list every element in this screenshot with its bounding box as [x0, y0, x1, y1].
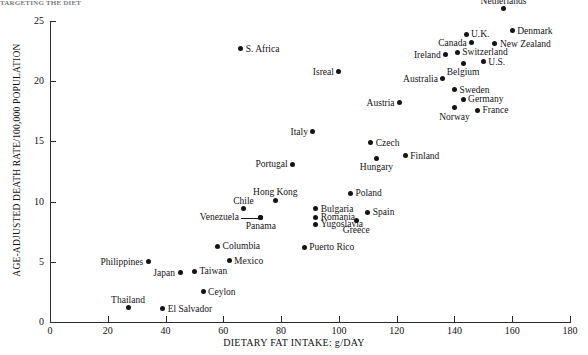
- data-point: [461, 97, 466, 102]
- x-tick: [570, 316, 571, 322]
- x-tick-label: 140: [439, 326, 469, 336]
- data-point-label: Japan: [153, 268, 175, 278]
- data-point: [403, 153, 408, 158]
- x-tick-label: 160: [497, 326, 527, 336]
- y-axis-title: AGE-ADJUSTED DEATH RATE/100,000 POPULATI…: [12, 10, 22, 310]
- data-point: [313, 206, 318, 211]
- data-point: [201, 289, 206, 294]
- data-point-label: Belgium: [447, 67, 480, 77]
- x-tick-label: 120: [382, 326, 412, 336]
- data-point: [178, 270, 183, 275]
- data-point: [227, 258, 232, 263]
- data-point: [440, 76, 445, 81]
- data-point-label: U.S.: [488, 57, 505, 67]
- data-point-label: Ireland: [414, 50, 441, 60]
- data-point: [397, 100, 402, 105]
- data-point: [481, 59, 486, 64]
- data-point-label: Norway: [439, 112, 470, 122]
- data-point: [241, 206, 246, 211]
- data-point-label: Poland: [355, 188, 381, 198]
- data-point: [146, 259, 151, 264]
- data-point-label: Ceylon: [208, 287, 235, 297]
- x-axis-line: [50, 322, 571, 323]
- data-point: [126, 305, 131, 310]
- data-point: [510, 28, 515, 33]
- x-tick-label: 0: [35, 326, 65, 336]
- plot-area: NetherlandsDenmarkU.K.CanadaNew ZealandS…: [50, 21, 570, 322]
- data-point-label: Netherlands: [481, 0, 527, 6]
- data-point: [374, 156, 379, 161]
- data-point: [469, 40, 474, 45]
- data-point: [160, 306, 165, 311]
- data-point-label: France: [483, 105, 509, 115]
- data-point-label: Hungary: [360, 162, 393, 172]
- data-point-label: S. Africa: [246, 44, 280, 54]
- x-tick-label: 100: [324, 326, 354, 336]
- data-point: [313, 215, 318, 220]
- data-point-label: Germany: [468, 94, 503, 104]
- data-point-label: Columbia: [223, 241, 260, 251]
- data-point: [475, 108, 480, 113]
- data-point-label: Thailand: [111, 295, 145, 305]
- data-point-label: Switzerland: [462, 47, 507, 57]
- data-point: [452, 87, 457, 92]
- data-point-label: Spain: [373, 207, 395, 217]
- venezuela-leader-line: [241, 218, 259, 219]
- data-point: [273, 198, 278, 203]
- data-point: [501, 6, 506, 11]
- data-point-label: Italy: [290, 127, 307, 137]
- data-point-label: Philippines: [100, 257, 143, 267]
- data-point-label: Chile: [233, 196, 254, 206]
- data-point-label: Portugal: [255, 159, 287, 169]
- x-axis-title: DIETARY FAT INTAKE: g/DAY: [0, 337, 588, 348]
- data-point: [368, 140, 373, 145]
- data-point: [290, 162, 295, 167]
- data-point: [238, 46, 243, 51]
- data-point-label: El Salvador: [168, 304, 213, 314]
- x-tick-label: 40: [151, 326, 181, 336]
- data-point: [464, 32, 469, 37]
- data-point: [443, 52, 448, 57]
- data-point: [258, 215, 263, 220]
- data-point: [348, 191, 353, 196]
- data-point: [302, 245, 307, 250]
- data-point: [492, 41, 497, 46]
- data-point-label: Sweden: [459, 85, 489, 95]
- data-point: [452, 105, 457, 110]
- data-point: [455, 50, 460, 55]
- data-point: [365, 210, 370, 215]
- data-point: [336, 69, 341, 74]
- x-tick-label: 180: [555, 326, 585, 336]
- data-point-label: Finland: [410, 151, 439, 161]
- data-point-label: Hong Kong: [253, 187, 298, 197]
- data-point: [461, 61, 466, 66]
- data-point-label: Mexico: [234, 256, 263, 266]
- data-point-label: Venezuela: [200, 212, 239, 222]
- data-point: [215, 244, 220, 249]
- data-point-label: Czech: [376, 138, 400, 148]
- y-tick: [50, 322, 56, 323]
- data-point-label: Puerto Rico: [309, 242, 354, 252]
- data-point-label: Panama: [246, 221, 276, 231]
- data-point-label: Taiwan: [199, 266, 227, 276]
- data-point-label: Isreal: [313, 67, 334, 77]
- data-point-label: Australia: [403, 74, 438, 84]
- scatter-plot-figure: TARGETING THE DIET 0510152025 0204060801…: [0, 0, 588, 355]
- data-point: [192, 269, 197, 274]
- x-tick-label: 80: [266, 326, 296, 336]
- data-point-label: U.K.: [471, 29, 489, 39]
- data-point-label: Yugoslavia: [321, 219, 363, 229]
- data-point-label: Canada: [438, 38, 467, 48]
- data-point-label: Austria: [367, 98, 395, 108]
- data-point: [313, 222, 318, 227]
- data-point: [310, 129, 315, 134]
- data-point-label: Denmark: [517, 26, 552, 36]
- x-tick-label: 20: [93, 326, 123, 336]
- x-tick-label: 60: [208, 326, 238, 336]
